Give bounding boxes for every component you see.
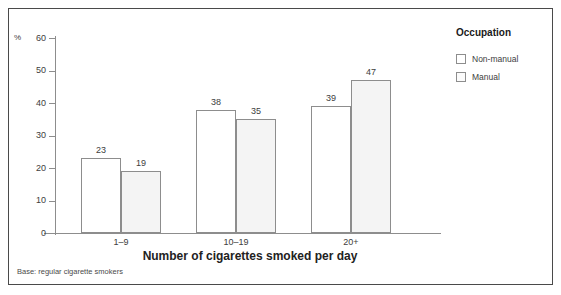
y-axis-tick-label-text: 10 [6, 196, 46, 205]
y-axis-tick-label-text: 50 [6, 66, 46, 75]
y-axis-tick [49, 71, 55, 72]
y-axis-tick-label: 30 [0, 131, 46, 141]
y-axis-tick-label: 0 [0, 229, 46, 239]
y-axis-tick [49, 38, 55, 39]
footnote: Base: regular cigarette smokers [17, 268, 123, 276]
y-axis-tick-label-text: 60 [6, 34, 46, 43]
y-axis-tick-label: 20 [0, 164, 46, 174]
y-axis-tick [49, 136, 55, 137]
bar [121, 171, 161, 233]
x-axis-title: Number of cigarettes smoked per day [0, 249, 500, 263]
x-axis-category-label: 10–19 [196, 238, 276, 247]
y-axis-tick-label-text: 30 [6, 131, 46, 140]
y-axis-line [55, 36, 56, 235]
y-axis-tick [49, 168, 55, 169]
bar-value-label: 47 [351, 68, 391, 77]
y-axis-tick [49, 201, 55, 202]
legend-swatch-icon [456, 54, 466, 64]
y-axis-tick-label: 50 [0, 66, 46, 76]
bar [351, 80, 391, 233]
legend-title: Occupation [456, 28, 551, 38]
legend-item: Non-manual [456, 54, 551, 64]
legend-item-label: Manual [472, 73, 500, 82]
legend: Occupation Non-manualManual [456, 28, 551, 90]
legend-item-label: Non-manual [472, 55, 518, 64]
bar-value-label: 38 [196, 98, 236, 107]
x-axis-category-label: 1–9 [81, 238, 161, 247]
chart-figure: % 0102030405060 231938353947 1–910–1920+… [0, 0, 561, 295]
y-axis-tick-label-text: 0 [6, 229, 46, 238]
y-axis-tick-label-text: 40 [6, 99, 46, 108]
x-axis-category-label: 20+ [311, 238, 391, 247]
y-axis-tick-label: 60 [0, 34, 46, 44]
legend-swatch-icon [456, 72, 466, 82]
y-axis-tick [49, 233, 55, 234]
legend-item: Manual [456, 72, 551, 82]
bar [236, 119, 276, 233]
bar [196, 110, 236, 234]
y-axis-tick [49, 103, 55, 104]
bar-value-label: 35 [236, 107, 276, 116]
bar [311, 106, 351, 233]
legend-items: Non-manualManual [456, 54, 551, 82]
bar-value-label: 23 [81, 146, 121, 155]
bar-value-label: 19 [121, 159, 161, 168]
y-axis-tick-label-text: 20 [6, 164, 46, 173]
y-axis-tick-label: 10 [0, 196, 46, 206]
y-axis-tick-label: 40 [0, 99, 46, 109]
bar-value-label: 39 [311, 94, 351, 103]
x-axis-line [44, 233, 441, 234]
bar [81, 158, 121, 233]
